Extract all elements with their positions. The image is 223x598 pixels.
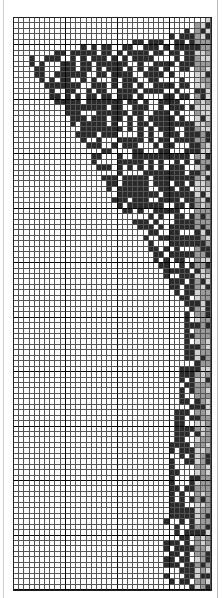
pattern-grid: [13, 17, 212, 591]
grid-cell: [206, 585, 211, 590]
